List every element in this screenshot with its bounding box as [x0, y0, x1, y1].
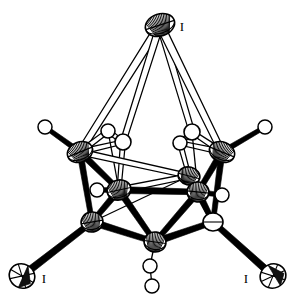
ortep-figure: III — [0, 0, 298, 301]
molecular-structure-canvas: III — [0, 0, 298, 301]
ellipsoid-outline — [173, 136, 187, 150]
atom-b10-b — [115, 134, 131, 150]
ellipsoid-outline — [115, 134, 131, 150]
atom-b12-b — [173, 136, 187, 150]
label-i-bottom-right: I — [244, 271, 248, 286]
ellipsoid-outline — [215, 188, 229, 202]
ellipsoid-outline — [38, 120, 52, 134]
ellipsoid-outline — [145, 279, 159, 293]
atom-b9-b — [101, 124, 115, 138]
ellipsoid-outline — [258, 120, 272, 134]
atom-h3-h — [90, 183, 104, 197]
atom-h6-h — [145, 279, 159, 293]
atom-h2-h — [258, 120, 272, 134]
atom-b8-b — [203, 213, 223, 231]
atom-h4-h — [215, 188, 229, 202]
label-i-bottom-left: I — [42, 271, 46, 286]
ellipsoid-outline — [184, 124, 200, 140]
atom-h5-h — [143, 259, 157, 273]
atom-h1-h — [38, 120, 52, 134]
ellipsoid-outline — [101, 124, 115, 138]
ellipsoid-outline — [90, 183, 104, 197]
label-i-top: I — [180, 19, 184, 34]
atom-b11-b — [184, 124, 200, 140]
ellipsoid-outline — [143, 259, 157, 273]
